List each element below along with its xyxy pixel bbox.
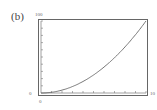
plot-frame <box>39 20 148 96</box>
data-curve <box>41 21 146 93</box>
plot-area <box>0 0 157 110</box>
axis-ticks <box>41 21 146 93</box>
